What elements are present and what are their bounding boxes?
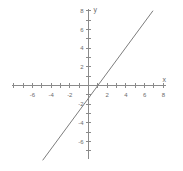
y-tick-label: -4 [78,120,84,126]
x-tick-label: 2 [106,92,110,98]
y-tick-label: 8 [80,8,84,14]
x-axis-label: x [163,76,167,83]
y-tick-label: 4 [80,45,84,51]
axis-names-group: xy [94,6,167,83]
x-tick-label: -6 [30,92,36,98]
y-axis-label: y [94,6,98,14]
axes-group [12,9,167,160]
x-tick-label: -4 [48,92,54,98]
coordinate-plane-chart: -6-4-224688642-2-4-6 xy [0,0,183,171]
x-tick-label: -2 [67,92,73,98]
tick-labels-group: -6-4-224688642-2-4-6 [30,8,166,145]
y-tick-label: -6 [78,139,84,145]
y-tick-label: -2 [78,101,84,107]
x-tick-label: 6 [143,92,147,98]
y-tick-label: 6 [80,27,84,33]
x-tick-label: 4 [124,92,128,98]
y-tick-label: 2 [80,64,84,70]
plot-area: -6-4-224688642-2-4-6 xy [0,0,183,171]
x-tick-label: 8 [162,92,166,98]
